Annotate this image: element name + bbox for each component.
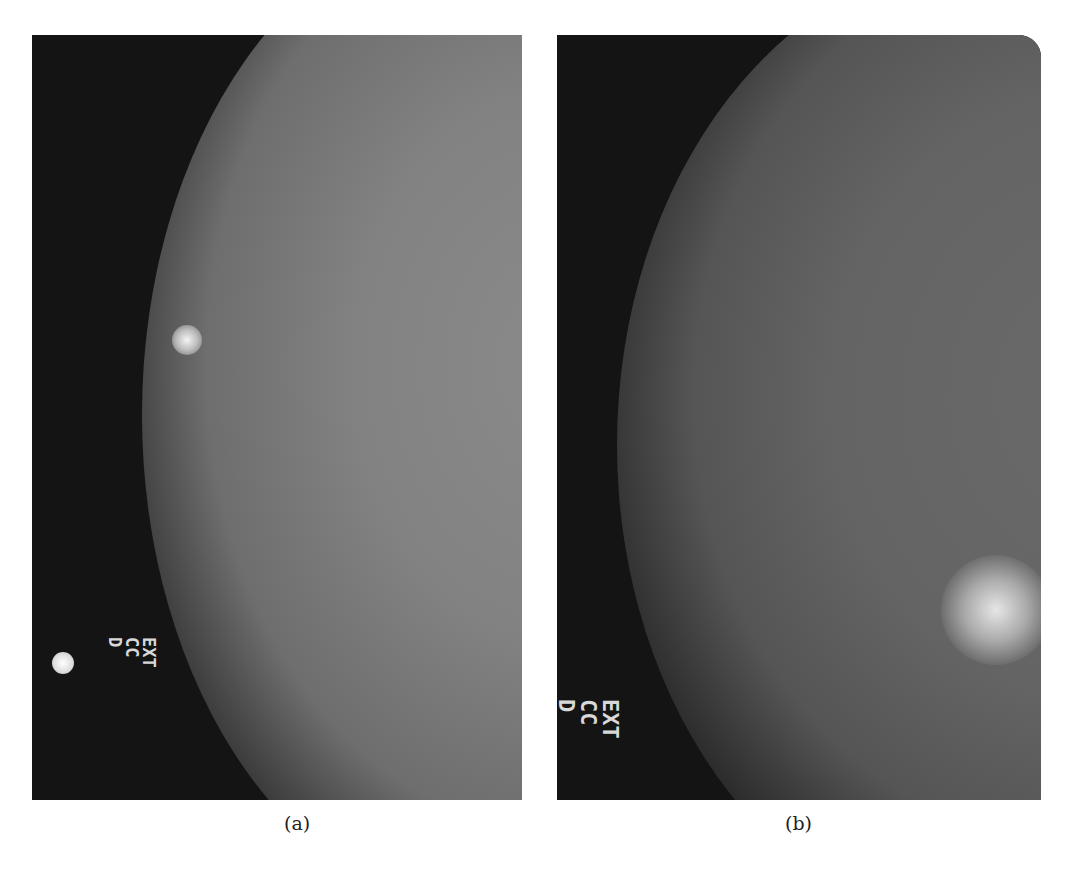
caption-b: (b) (785, 812, 812, 834)
lead-marker-dot (52, 652, 74, 674)
view-label-a: EXT CC D (106, 637, 157, 668)
dense-region (941, 555, 1041, 665)
breast-tissue-b (617, 35, 1041, 800)
caption-a: (a) (284, 812, 310, 834)
mammogram-panel-a: EXT CC D (32, 35, 522, 800)
breast-tissue-a (142, 35, 522, 800)
nipple-highlight (172, 325, 202, 355)
view-label-b: EXT CC D (557, 699, 621, 739)
mammogram-panel-b: EXT CC D (557, 35, 1041, 800)
